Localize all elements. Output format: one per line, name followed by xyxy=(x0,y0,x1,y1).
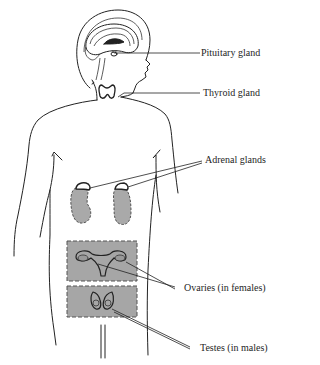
adrenal-leader-right xyxy=(128,163,202,187)
ovaries-region xyxy=(67,241,137,281)
label-thyroid-gland: Thyroid gland xyxy=(203,87,260,99)
thyroid-gland-shape xyxy=(99,85,115,98)
adrenal-leader-left xyxy=(90,161,202,188)
label-pituitary-gland: Pituitary gland xyxy=(201,47,260,59)
kidneys-and-adrenals xyxy=(71,183,131,225)
testes-region xyxy=(67,286,137,317)
brain-illustration xyxy=(85,24,138,60)
label-testes: Testes (in males) xyxy=(200,342,268,354)
label-adrenal-glands: Adrenal glands xyxy=(205,154,266,166)
testes-leader-1 xyxy=(112,309,190,347)
label-ovaries: Ovaries (in females) xyxy=(184,282,266,294)
testes-leader-2 xyxy=(114,312,190,349)
